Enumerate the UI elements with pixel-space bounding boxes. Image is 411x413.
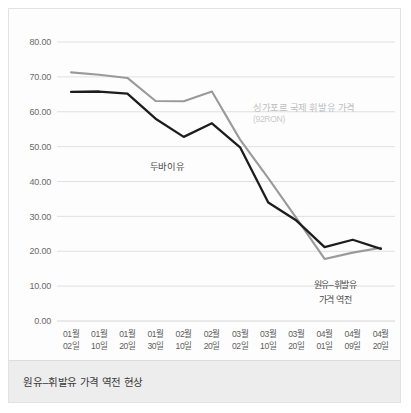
x-axis-tick-label-month: 04월 — [316, 328, 333, 339]
x-axis-tick-label-day: 20일 — [373, 341, 390, 351]
y-axis-tick-label: 70.00 — [29, 72, 51, 82]
x-axis-tick-label-day: 10일 — [91, 341, 108, 351]
series-line-singapore — [71, 72, 381, 259]
y-axis-tick-label: 80.00 — [29, 37, 51, 47]
y-axis-tick-label: 20.00 — [29, 246, 51, 256]
annotation-reversal-line2: 가격 역전 — [319, 294, 352, 305]
x-axis-tick-label-month: 01월 — [119, 328, 136, 339]
x-axis-tick-label-day: 20일 — [288, 341, 305, 351]
x-axis-tick-label-day: 02일 — [63, 341, 80, 351]
line-chart-svg: 0.0010.0020.0030.0040.0050.0060.0070.008… — [9, 9, 402, 359]
x-axis-tick-label-day: 10일 — [176, 341, 193, 351]
data-series-group — [71, 72, 381, 259]
y-axis-tick-label: 50.00 — [29, 142, 51, 152]
chart-plot-area: 0.0010.0020.0030.0040.0050.0060.0070.008… — [9, 9, 402, 359]
x-axis-tick-label-month: 02월 — [204, 328, 221, 339]
x-axis-tick-label-month: 01월 — [63, 328, 80, 339]
x-axis-tick-label-day: 09일 — [345, 341, 362, 351]
y-axis-tick-label: 40.00 — [29, 177, 51, 187]
x-axis-tick-label-month: 02월 — [176, 328, 193, 339]
x-axis-tick-label-month: 04월 — [345, 328, 362, 339]
x-axis-tick-label-day: 02일 — [232, 341, 249, 351]
x-axis-tick-label-month: 03월 — [232, 328, 249, 339]
x-axis-tick-label-day: 20일 — [204, 341, 221, 351]
annotation-singapore-sublabel: (92RON) — [253, 114, 285, 124]
y-axis-tick-label: 60.00 — [29, 107, 51, 117]
x-axis-tick-labels: 01월02일01월10일01월20일01월30일02월10일02월20일03월0… — [63, 328, 390, 351]
annotation-reversal-line1: 원유–휘발유 — [314, 280, 357, 290]
x-axis-tick-label-month: 03월 — [260, 328, 277, 339]
y-axis-tick-labels: 0.0010.0020.0030.0040.0050.0060.0070.008… — [29, 37, 51, 326]
y-axis-tick-label: 30.00 — [29, 212, 51, 222]
x-axis-tick-label-month: 01월 — [91, 328, 108, 339]
caption-text: 원유–휘발유 가격 역전 현상 — [23, 374, 143, 389]
x-axis-tick-label-month: 03월 — [288, 328, 305, 339]
annotation-singapore-label: 싱가포르 국제 휘발유 가격 — [253, 102, 355, 113]
x-axis-tick-label-day: 10일 — [260, 341, 277, 351]
x-axis-tick-label-day: 30일 — [147, 341, 164, 351]
x-axis-tick-label-day: 20일 — [119, 341, 136, 351]
x-axis-tick-label-month: 01월 — [147, 328, 164, 339]
x-axis-tick-label-month: 04월 — [373, 328, 390, 339]
y-axis-tick-label: 10.00 — [29, 281, 51, 291]
x-axis-tick-label-day: 01일 — [316, 341, 333, 351]
annotation-dubai-label: 두바이유 — [150, 162, 185, 172]
caption-band: 원유–휘발유 가격 역전 현상 — [9, 360, 400, 402]
figure-container: 0.0010.0020.0030.0040.0050.0060.0070.008… — [8, 8, 401, 403]
y-axis-tick-label: 0.00 — [34, 316, 51, 326]
